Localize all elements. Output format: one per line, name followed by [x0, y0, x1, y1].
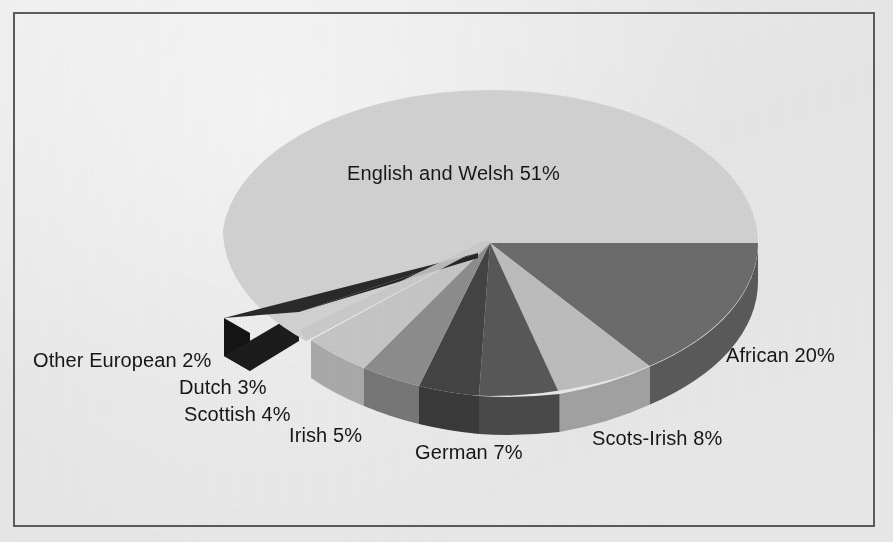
pie-label-african: African 20% — [726, 345, 835, 365]
pie-label-dutch: Dutch 3% — [179, 377, 267, 397]
pie-label-scottish: Scottish 4% — [184, 404, 291, 424]
pie-label-german: German 7% — [415, 442, 523, 462]
figure-page: English and Welsh 51% African 20% Scots-… — [0, 0, 893, 542]
pie-chart: English and Welsh 51% African 20% Scots-… — [0, 0, 893, 542]
pie-label-scots-irish: Scots-Irish 8% — [592, 428, 722, 448]
pie-label-english-and-welsh: English and Welsh 51% — [347, 163, 560, 183]
pie-top-faces — [223, 77, 759, 397]
pie-label-other-european: Other European 2% — [33, 350, 211, 370]
pie-side-german — [479, 394, 560, 435]
pie-label-irish: Irish 5% — [289, 425, 362, 445]
